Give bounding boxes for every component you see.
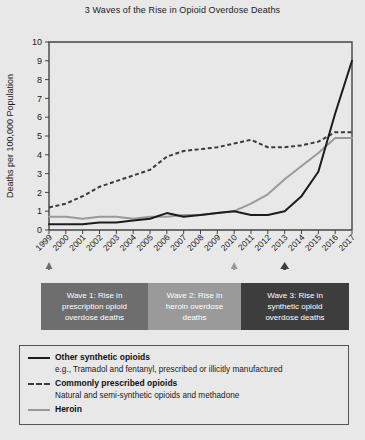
x-tick-label: 1999 <box>33 232 54 253</box>
x-tick-label: 2010 <box>219 232 240 253</box>
chart-page: 3 Waves of the Rise in Opioid Overdose D… <box>0 0 365 440</box>
y-tick-label: 8 <box>37 75 42 85</box>
legend-line-swatch-icon <box>28 404 50 415</box>
x-tick-label: 2016 <box>320 232 341 253</box>
legend-item-label: Heroin <box>55 404 82 415</box>
chart-legend: Other synthetic opioidse.g., Tramadol an… <box>19 345 349 425</box>
x-tick-label: 2006 <box>151 232 172 253</box>
x-tick-label: 2007 <box>168 232 189 253</box>
x-tick-label: 2002 <box>84 232 105 253</box>
y-tick-label: 9 <box>37 56 42 66</box>
x-tick-label: 2001 <box>67 232 88 253</box>
wave-annotation-line: overdose deaths <box>62 312 127 323</box>
wave-annotation-text: Wave 2: Rise inheroin overdosedeaths <box>166 290 223 323</box>
wave-annotation-line: Wave 2: Rise in <box>166 290 223 301</box>
x-tick-label: 2005 <box>134 232 155 253</box>
legend-item[interactable]: Other synthetic opioids <box>28 352 340 363</box>
legend-item-label: Commonly prescribed opioids <box>55 378 177 389</box>
y-tick-label: 6 <box>37 112 42 122</box>
y-tick-label: 1 <box>37 206 42 216</box>
x-tick-label: 2014 <box>286 232 307 253</box>
legend-item-description: Natural and semi-synthetic opioids and m… <box>55 390 340 401</box>
wave-marker-arrow <box>46 262 53 270</box>
y-tick-label: 5 <box>37 131 42 141</box>
y-tick-label: 3 <box>37 169 42 179</box>
x-tick-label: 2011 <box>236 232 256 252</box>
x-tick-label: 2004 <box>118 232 139 253</box>
series-line <box>49 138 352 219</box>
wave-annotation-1: Wave 1: Rise inprescription opioidoverdo… <box>41 283 148 330</box>
x-tick-label: 2003 <box>101 232 122 253</box>
x-tick-label: 2008 <box>185 232 206 253</box>
x-tick-label: 2009 <box>202 232 223 253</box>
y-axis-label: Deaths per 100,000 Population <box>5 74 15 198</box>
legend-line-swatch-icon <box>28 352 50 363</box>
legend-line-swatch-icon <box>28 378 50 389</box>
y-tick-label: 0 <box>37 225 42 235</box>
wave-annotation-text: Wave 3: Rise insynthetic opioidoverdose … <box>265 290 324 323</box>
legend-item[interactable]: Heroin <box>28 404 340 415</box>
wave-marker-arrow <box>231 262 238 270</box>
y-tick-label: 2 <box>37 188 42 198</box>
series-line <box>49 132 352 207</box>
line-chart-plot: 012345678910Deaths per 100,000 Populatio… <box>0 0 365 270</box>
wave-annotation-text: Wave 1: Rise inprescription opioidoverdo… <box>62 290 127 323</box>
y-tick-label: 4 <box>37 150 42 160</box>
x-tick-label: 2017 <box>336 232 357 253</box>
wave-marker-arrow <box>280 262 289 270</box>
plot-frame <box>49 42 352 230</box>
wave-annotation-line: synthetic opioid <box>265 301 324 312</box>
x-tick-label: 2013 <box>269 232 290 253</box>
x-tick-label: 2012 <box>252 232 273 253</box>
x-tick-label: 2015 <box>303 232 324 253</box>
wave-annotation-3: Wave 3: Rise insynthetic opioidoverdose … <box>241 283 349 330</box>
wave-annotation-2: Wave 2: Rise inheroin overdosedeaths <box>148 283 241 330</box>
wave-annotation-line: Wave 3: Rise in <box>265 290 324 301</box>
y-tick-label: 10 <box>32 37 42 47</box>
legend-item-label: Other synthetic opioids <box>55 352 150 363</box>
wave-annotation-line: overdose deaths <box>265 312 324 323</box>
wave-annotation-line: Wave 1: Rise in <box>62 290 127 301</box>
legend-item-description: e.g., Tramadol and fentanyl, prescribed … <box>55 364 340 375</box>
series-line <box>49 61 352 225</box>
wave-annotation-line: deaths <box>166 312 223 323</box>
legend-item[interactable]: Commonly prescribed opioids <box>28 378 340 389</box>
wave-annotation-line: heroin overdose <box>166 301 223 312</box>
y-tick-label: 7 <box>37 94 42 104</box>
wave-annotation-line: prescription opioid <box>62 301 127 312</box>
x-tick-label: 2000 <box>50 232 71 253</box>
